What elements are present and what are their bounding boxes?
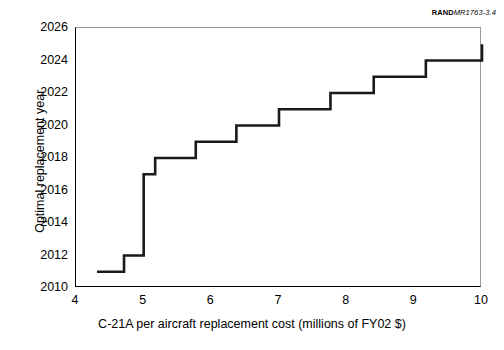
step-line-series [76,28,482,288]
x-axis-tick-label: 4 [57,294,93,307]
y-axis-tick-label: 2010 [28,281,68,294]
x-axis-tick-label: 6 [192,294,228,307]
x-axis-tick-label: 5 [125,294,161,307]
y-axis-tick-label: 2012 [28,249,68,262]
x-axis-tick-labels: 45678910 [0,294,504,312]
y-axis-tick-label: 2014 [28,216,68,229]
x-axis-title: C-21A per aircraft replacement cost (mil… [0,318,504,331]
y-axis-tick-label: 2026 [28,21,68,34]
optimal-replacement-year-step-line [97,44,482,272]
rand-logo-text: RAND [432,8,454,17]
x-axis-tick-label: 8 [328,294,364,307]
y-axis-tick-label: 2016 [28,184,68,197]
y-axis-tick-label: 2020 [28,119,68,132]
rand-document-number: MR1763-3.4 [454,8,496,17]
y-axis-tick-label: 2024 [28,54,68,67]
y-axis-tick-label: 2022 [28,86,68,99]
x-axis-tick-label: 9 [395,294,431,307]
x-axis-tick-label: 7 [260,294,296,307]
figure-container: RANDMR1763-3.4 Optimal replacement year … [0,0,504,350]
plot-area [75,27,481,287]
y-axis-tick-label: 2018 [28,151,68,164]
rand-credit-line: RANDMR1763-3.4 [432,9,496,17]
x-axis-tick-label: 10 [463,294,499,307]
